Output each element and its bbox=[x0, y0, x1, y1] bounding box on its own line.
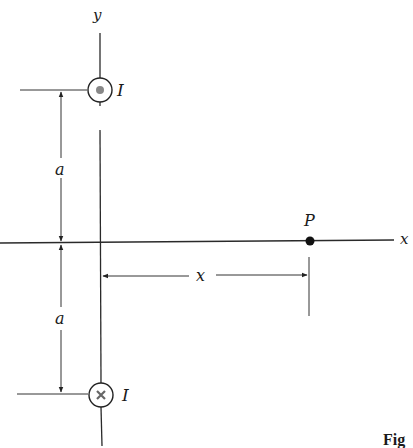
upper-a-label: a bbox=[55, 160, 65, 179]
figure-caption: Fig bbox=[383, 431, 405, 448]
lower-a-dimension: a bbox=[55, 245, 65, 392]
point-p-label: P bbox=[303, 211, 315, 230]
lower-a-label: a bbox=[55, 309, 65, 328]
point-p-marker bbox=[306, 237, 315, 246]
bottom-wire: I bbox=[17, 383, 129, 407]
x-distance-dimension: x bbox=[103, 257, 309, 316]
x-distance-label: x bbox=[196, 266, 205, 285]
top-current-label: I bbox=[116, 80, 124, 100]
bottom-current-label: I bbox=[121, 385, 129, 405]
y-axis: y bbox=[92, 6, 102, 446]
y-axis-label: y bbox=[92, 6, 102, 24]
magnetic-field-wires-diagram: y x I I a a x P Fi bbox=[0, 0, 413, 448]
x-axis-label: x bbox=[400, 230, 409, 248]
top-wire: I bbox=[20, 78, 124, 102]
upper-a-dimension: a bbox=[55, 92, 65, 241]
